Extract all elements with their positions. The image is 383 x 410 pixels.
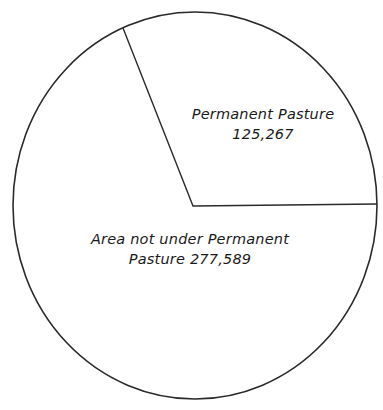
slice-label-permanent-pasture-name: Permanent Pasture (163, 104, 363, 124)
slice-label-not-permanent-pasture-line2: Pasture 277,589 (40, 249, 340, 269)
pie-chart-graphic (0, 0, 383, 410)
slice-label-permanent-pasture-value: 125,267 (163, 124, 363, 144)
slice-label-not-permanent-pasture: Area not under Permanent Pasture 277,589 (40, 229, 340, 269)
slice-label-permanent-pasture: Permanent Pasture 125,267 (163, 104, 363, 144)
pie-chart: Permanent Pasture 125,267 Area not under… (0, 0, 383, 410)
slice-label-not-permanent-pasture-line1: Area not under Permanent (40, 229, 340, 249)
